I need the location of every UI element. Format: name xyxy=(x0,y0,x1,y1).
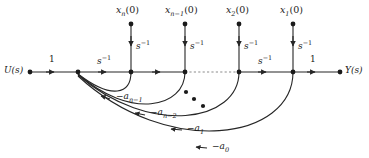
feedback-gain-an-2-symbol: −a xyxy=(150,107,163,117)
signal-flow-graph-canvas xyxy=(0,0,369,158)
ic-label-xn: xn(0) xyxy=(116,5,139,17)
integrator-gain-right-exponent: −1 xyxy=(263,54,273,62)
ic-label-xnm1-subscript: n−1 xyxy=(170,10,184,18)
arrow-feedback-a1 xyxy=(171,129,182,130)
branch-gain-x2-exponent: −1 xyxy=(249,39,259,47)
ellipsis-dot-3 xyxy=(201,104,205,108)
feedback-gain-an-2-label: −an−2 xyxy=(150,108,177,119)
ic-label-x1: x1(0) xyxy=(280,5,303,17)
node-state-xn xyxy=(129,70,134,75)
feedback-gain-an-1-subscript: n−1 xyxy=(129,96,143,104)
integrator-gain-left-exponent: −1 xyxy=(102,54,112,62)
feedback-gain-a1-subscript: 1 xyxy=(200,128,204,136)
branch-gain-x1-label: s−1 xyxy=(298,40,312,51)
input-terminal-label: U(s) xyxy=(4,66,23,75)
feedback-gain-a0-symbol: −a xyxy=(212,141,225,151)
branch-gain-xn-label: s−1 xyxy=(136,40,150,51)
ic-label-x1-suffix: (0) xyxy=(290,4,303,15)
ic-label-x2-suffix: (0) xyxy=(236,4,249,15)
feedback-gain-a0-subscript: 0 xyxy=(225,146,229,154)
feedback-gain-a1-symbol: −a xyxy=(187,123,200,133)
node-state-x1 xyxy=(291,70,296,75)
branch-gain-xnm1-label: s−1 xyxy=(190,40,204,51)
branch-gain-x2-label: s−1 xyxy=(244,40,258,51)
node-input xyxy=(28,70,33,75)
ic-label-xn-suffix: (0) xyxy=(126,4,139,15)
integrator-gain-right-label: s−1 xyxy=(258,55,272,66)
ellipsis-dots xyxy=(184,90,205,108)
integrator-gain-left-label: s−1 xyxy=(97,55,111,66)
signal-flow-graph-figure: U(s) Y(s) 1 1 s−1 s−1 xn(0) xn−1(0) x2(0… xyxy=(0,0,369,158)
output-gain-label: 1 xyxy=(310,55,316,64)
branch-gain-x1-exponent: −1 xyxy=(303,39,313,47)
feedback-gain-an-1-symbol: −a xyxy=(116,91,129,101)
feedback-gain-a0-label: −a0 xyxy=(212,142,229,153)
ic-label-xnm1-suffix: (0) xyxy=(184,4,197,15)
feedback-arcs xyxy=(78,72,293,131)
ellipsis-dot-1 xyxy=(184,90,188,94)
branch-gain-xnm1-exponent: −1 xyxy=(195,39,205,47)
branch-gain-xn-exponent: −1 xyxy=(141,39,151,47)
node-state-xnm1 xyxy=(183,70,188,75)
feedback-gain-an-1-label: −an−1 xyxy=(116,92,143,103)
node-output xyxy=(338,70,343,75)
output-terminal-label: Y(s) xyxy=(345,66,363,75)
node-ic-xn xyxy=(129,22,134,27)
arrow-feedback-a0 xyxy=(196,147,207,148)
node-ic-xnm1 xyxy=(183,22,188,27)
node-state-x2 xyxy=(237,70,242,75)
node-summing xyxy=(76,70,81,75)
ic-label-xnm1: xn−1(0) xyxy=(165,5,198,17)
feedback-gain-a1-label: −a1 xyxy=(187,124,204,135)
feedback-gain-an-2-subscript: n−2 xyxy=(163,112,177,120)
node-ic-x1 xyxy=(291,22,296,27)
node-ic-x2 xyxy=(237,22,242,27)
ellipsis-dot-2 xyxy=(192,97,196,101)
ic-label-x2: x2(0) xyxy=(226,5,249,17)
feedback-arc-a0 xyxy=(78,72,293,131)
input-gain-label: 1 xyxy=(49,55,55,64)
